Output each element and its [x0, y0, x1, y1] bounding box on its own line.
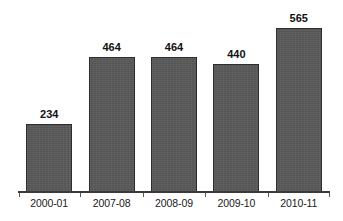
x-axis-tick [268, 193, 269, 197]
bar-rect[interactable] [213, 64, 259, 192]
bar-group: 234 [26, 0, 72, 192]
bar-group: 565 [276, 0, 322, 192]
bar-group: 464 [89, 0, 135, 192]
plot-area: 234 464 464 440 565 [0, 0, 343, 192]
x-axis-category-label: 2010-11 [280, 197, 317, 209]
bar-value-label: 565 [290, 12, 308, 24]
bar-rect[interactable] [151, 57, 197, 192]
x-axis-category-label: 2009-10 [217, 197, 255, 209]
bar-value-label: 464 [102, 41, 120, 53]
x-axis-tick [143, 193, 144, 197]
x-axis-category-label: 2007-08 [93, 197, 131, 209]
bar-chart: 234 464 464 440 565 2000-01 2007-08 2008… [0, 0, 343, 221]
bar-rect[interactable] [276, 28, 322, 192]
x-axis-line [18, 191, 330, 193]
bar-value-label: 234 [40, 108, 58, 120]
x-axis-category-label: 2000-01 [30, 197, 68, 209]
x-axis-tick [80, 193, 81, 197]
bar-value-label: 464 [165, 41, 183, 53]
bar-rect[interactable] [89, 57, 135, 192]
x-axis-tick [329, 193, 330, 197]
x-axis-tick [205, 193, 206, 197]
x-axis-category-label: 2008-09 [155, 197, 193, 209]
bar-rect[interactable] [26, 124, 72, 192]
bar-group: 464 [151, 0, 197, 192]
bar-value-label: 440 [227, 48, 245, 60]
x-axis-tick [19, 193, 20, 197]
bar-group: 440 [213, 0, 259, 192]
